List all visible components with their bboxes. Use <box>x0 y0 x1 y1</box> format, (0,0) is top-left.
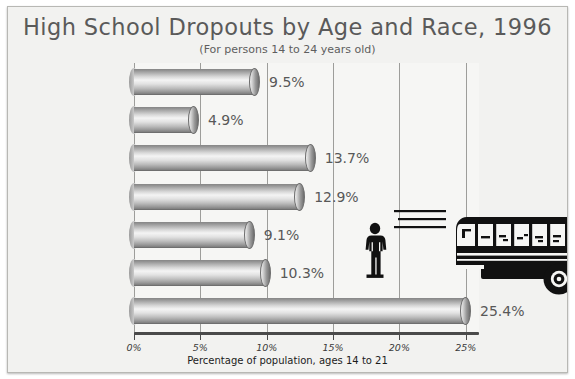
x-axis-caption: Percentage of population, ages 14 to 21 <box>8 355 567 366</box>
chart-subtitle: (For persons 14 to 24 years old) <box>8 43 567 56</box>
bar <box>134 298 471 324</box>
bar-body <box>134 222 250 248</box>
bar <box>134 145 316 171</box>
x-axis-tick <box>333 334 334 340</box>
bar-end-cap <box>188 106 199 134</box>
bar-end-cap <box>305 144 316 172</box>
bar-end-cap <box>294 183 305 211</box>
bar-value-label: 9.5% <box>269 74 305 90</box>
gridline <box>399 63 400 335</box>
bar-body <box>134 260 266 286</box>
bar-body <box>134 107 194 133</box>
chart-card: High School Dropouts by Age and Race, 19… <box>7 6 568 373</box>
bar-value-label: 13.7% <box>325 150 369 166</box>
x-axis-tick <box>267 334 268 340</box>
bar-body <box>134 69 255 95</box>
x-axis-tick <box>200 334 201 340</box>
bar-body <box>134 298 466 324</box>
x-axis-tick-label: 15% <box>322 342 343 353</box>
bar <box>134 222 255 248</box>
bar-value-label: 10.3% <box>280 265 324 281</box>
x-axis-tick-label: 20% <box>389 342 410 353</box>
x-axis-tick <box>399 334 400 340</box>
chart-title: High School Dropouts by Age and Race, 19… <box>8 14 567 40</box>
x-axis-tick <box>134 334 135 340</box>
bar <box>134 107 199 133</box>
bar-end-cap <box>260 259 271 287</box>
x-axis-line <box>134 332 479 335</box>
plot-area: 9.5%4.9%13.7%12.9%9.1%10.3%25.4% 0%5%10%… <box>134 63 479 335</box>
bar-body <box>134 184 300 210</box>
bar-value-label: 9.1% <box>264 227 300 243</box>
bar-value-label: 4.9% <box>208 112 244 128</box>
x-axis-tick-label: 5% <box>193 342 208 353</box>
bar <box>134 184 305 210</box>
x-axis-tick-label: 0% <box>126 342 141 353</box>
x-axis-tick-label: 25% <box>455 342 476 353</box>
bar-end-cap <box>460 297 471 325</box>
bar-body <box>134 145 311 171</box>
chart-frame: High School Dropouts by Age and Race, 19… <box>0 0 575 379</box>
bar-end-cap <box>244 221 255 249</box>
gridline <box>466 63 467 335</box>
x-axis-tick <box>466 334 467 340</box>
bar <box>134 69 260 95</box>
bar-value-label: 25.4% <box>480 303 524 319</box>
x-axis-tick-label: 10% <box>256 342 277 353</box>
bar-end-cap <box>249 68 260 96</box>
bar <box>134 260 271 286</box>
bar-value-label: 12.9% <box>314 189 358 205</box>
